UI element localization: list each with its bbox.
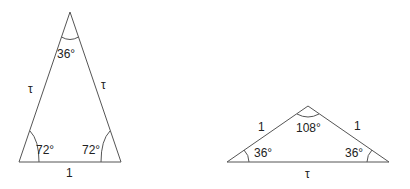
- apex-angle-label: 36°: [57, 47, 75, 61]
- left-side-label: τ: [28, 82, 33, 96]
- triangles-diagram: 36° 72° 72° τ τ 1 108° 36° 36° 1 1 τ: [0, 0, 410, 189]
- right-angle-label: 72°: [82, 143, 100, 157]
- right-side-label: 1: [354, 119, 361, 133]
- golden-gnomon: 108° 36° 36° 1 1 τ: [227, 106, 389, 181]
- apex-angle-arc: [297, 114, 319, 117]
- left-angle-arc: [244, 150, 249, 162]
- right-angle-arc: [101, 131, 110, 162]
- base-label: τ: [305, 167, 310, 181]
- right-angle-label: 36°: [345, 146, 363, 160]
- base-label: 1: [66, 166, 73, 180]
- apex-angle-label: 108°: [296, 121, 321, 135]
- right-angle-arc: [367, 150, 372, 162]
- left-angle-label: 36°: [254, 146, 272, 160]
- apex-angle-arc: [62, 37, 79, 40]
- left-angle-label: 72°: [36, 143, 54, 157]
- right-side-label: τ: [101, 78, 106, 92]
- left-side-label: 1: [258, 120, 265, 134]
- golden-triangle: 36° 72° 72° τ τ 1: [19, 12, 121, 180]
